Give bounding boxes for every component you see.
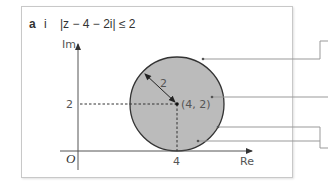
center-point — [175, 102, 179, 106]
im-axis-label: Im — [62, 38, 76, 51]
center-label: (4, 2) — [181, 98, 211, 111]
re-axis-label: Re — [240, 155, 254, 168]
leader-line-circle-boundary — [218, 127, 328, 148]
leader-dot — [217, 126, 220, 129]
inequality-text: |z − 4 − 2i| ≤ 2 — [60, 17, 136, 31]
radius-label: 2 — [160, 77, 167, 90]
y-tick-label: 2 — [66, 98, 73, 111]
leader-dot — [202, 58, 205, 61]
origin-label: O — [66, 151, 76, 166]
leader-dot — [211, 96, 214, 99]
leader-line-outside-region — [203, 41, 328, 59]
part-label: a — [29, 17, 36, 31]
subpart-label: i — [44, 17, 47, 31]
leader-dot — [197, 140, 200, 143]
x-tick-label: 4 — [173, 155, 180, 168]
argand-diagram: a i |z − 4 − 2i| ≤ 2 Im Re O 2 4 (4, 2) … — [0, 0, 328, 185]
